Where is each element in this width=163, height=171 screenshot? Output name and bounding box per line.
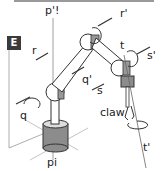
wrist: [121, 76, 134, 87]
label-p-prime: p'!: [45, 5, 59, 16]
label-p-base: pi: [47, 157, 57, 168]
claw-shaft: [126, 87, 129, 107]
label-r: r: [32, 45, 37, 56]
base: [43, 120, 68, 152]
label-claw: claw: [100, 107, 125, 118]
label-t-prime: t': [143, 142, 150, 153]
claw: [125, 106, 134, 120]
label-q: q: [20, 110, 27, 121]
label-s: s: [97, 85, 103, 96]
label-t: t: [120, 40, 124, 51]
joint-s: [111, 60, 130, 76]
label-s-prime: s': [147, 50, 156, 61]
label-q-prime: q': [82, 74, 92, 85]
label-r-prime: r': [120, 8, 128, 19]
